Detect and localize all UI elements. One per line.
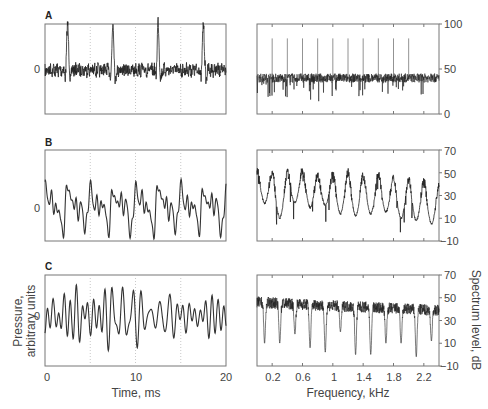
c-ytick-70: 70 bbox=[444, 269, 456, 281]
freq-tick-1.8: 1.8 bbox=[386, 371, 401, 383]
panel-a-spectrum bbox=[257, 24, 442, 114]
c-ytick-10: 10 bbox=[444, 337, 456, 349]
b-ytick-10: 10 bbox=[444, 213, 456, 225]
panel-label-b: B bbox=[45, 137, 52, 148]
panel-label-a: A bbox=[45, 10, 52, 21]
b-yticks: 70 50 30 10 −10 bbox=[440, 145, 459, 247]
b-ytick-minus10: −10 bbox=[440, 235, 459, 247]
time-tick-20: 20 bbox=[220, 371, 232, 383]
b-ytick-70: 70 bbox=[444, 145, 456, 157]
freq-tick-2.2: 2.2 bbox=[416, 371, 431, 383]
pressure-label-line2: arbitrary units bbox=[24, 285, 38, 358]
time-tick-10: 10 bbox=[130, 371, 142, 383]
trace bbox=[257, 74, 439, 102]
trace bbox=[45, 285, 226, 351]
freq-tick-0.6: 0.6 bbox=[295, 371, 310, 383]
panel-a-waveform bbox=[45, 17, 226, 114]
c-ytick-minus10: −10 bbox=[440, 360, 459, 372]
zero-tick-b: 0 bbox=[34, 202, 40, 214]
time-axis-label: Time, ms bbox=[112, 386, 161, 400]
a-ytick-100: 100 bbox=[444, 18, 462, 30]
trace bbox=[257, 297, 439, 357]
freq-tick-1.4: 1.4 bbox=[356, 371, 371, 383]
trace bbox=[257, 168, 439, 232]
trace bbox=[45, 179, 226, 239]
b-ytick-30: 30 bbox=[444, 190, 456, 202]
panel-c-spectrum bbox=[257, 275, 442, 366]
spectrum-axis-label: Spectrum level, dB bbox=[469, 270, 483, 371]
c-yticks: 70 50 30 10 −10 bbox=[440, 269, 459, 372]
a-ytick-50: 50 bbox=[444, 63, 456, 75]
a-ytick-0: 0 bbox=[444, 108, 450, 120]
freq-tick-0.2: 0.2 bbox=[265, 371, 280, 383]
freq-axis-label: Frequency, kHz bbox=[306, 386, 389, 400]
time-tick-0: 0 bbox=[44, 371, 50, 383]
freq-tick-1: 1 bbox=[331, 371, 337, 383]
panel-b-spectrum bbox=[257, 150, 442, 241]
b-ytick-50: 50 bbox=[444, 168, 456, 180]
panel-c-waveform bbox=[45, 275, 226, 366]
figure: A B C 0 0 0 0 10 20 Time, ms Pressure, a… bbox=[0, 0, 488, 409]
plot-frame bbox=[257, 275, 439, 366]
c-ytick-50: 50 bbox=[444, 292, 456, 304]
pressure-label-line1: Pressure, bbox=[11, 295, 25, 346]
zero-tick-a: 0 bbox=[34, 63, 40, 75]
panel-b-waveform bbox=[45, 150, 226, 241]
c-ytick-30: 30 bbox=[444, 315, 456, 327]
panel-label-c: C bbox=[45, 261, 52, 272]
